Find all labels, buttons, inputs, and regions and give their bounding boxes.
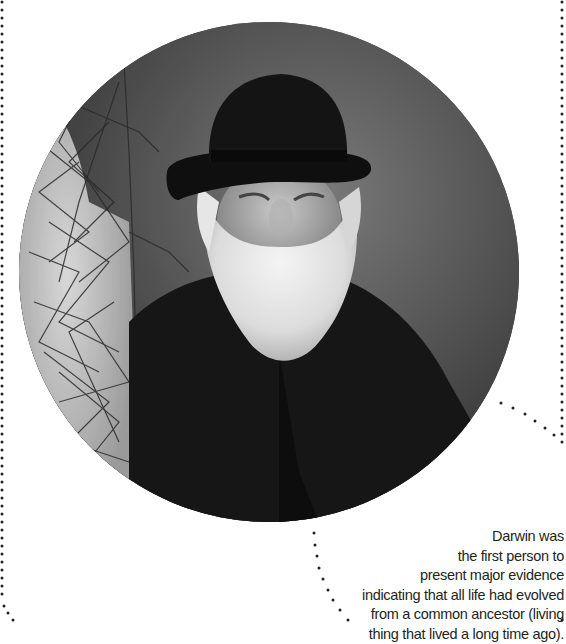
caption-line-3: present major evidence <box>350 566 564 586</box>
darwin-portrait-photo <box>19 22 519 522</box>
caption-line-4: indicating that all life had evolved <box>350 586 564 606</box>
caption-line-6: thing that lived a long time ago). <box>350 625 564 644</box>
caption-text: Darwin was the first person to present m… <box>350 527 564 644</box>
caption-line-2: the first person to <box>350 547 564 567</box>
caption-line-1: Darwin was <box>350 527 564 547</box>
caption-line-5: from a common ancestor (living <box>350 605 564 625</box>
